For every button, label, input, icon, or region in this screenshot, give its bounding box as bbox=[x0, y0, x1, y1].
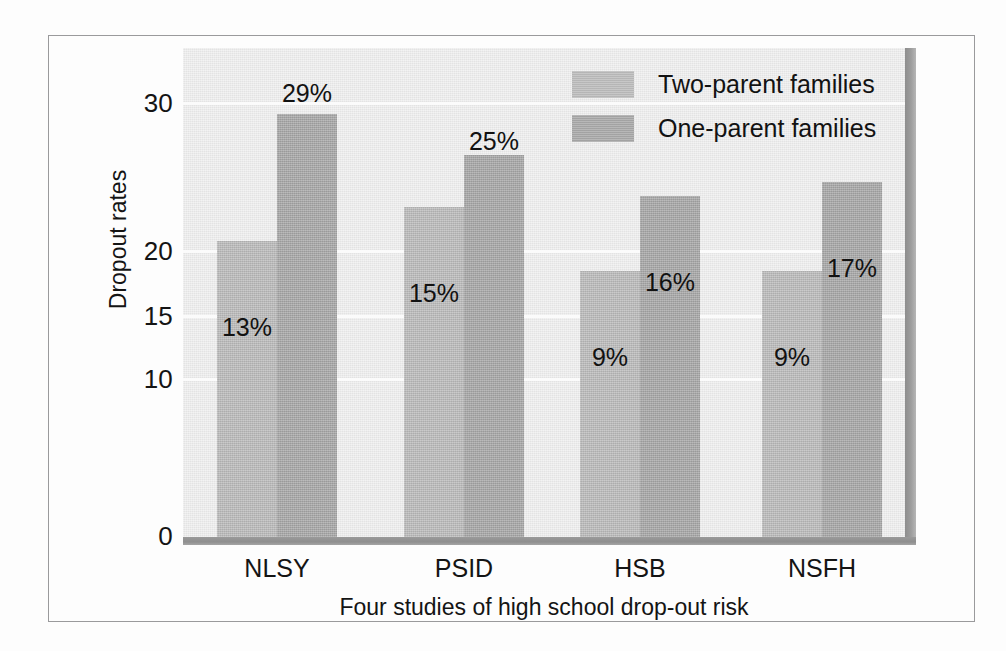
bar-value-nsfh-one-parent: 17% bbox=[792, 256, 912, 281]
y-tick-0: 0 bbox=[115, 523, 173, 549]
bar-psid-two-parent[interactable] bbox=[404, 207, 464, 537]
bar-value-nlsy-two-parent: 13% bbox=[187, 315, 307, 340]
x-tick-hsb: HSB bbox=[580, 556, 700, 581]
legend-label-one-parent: One-parent families bbox=[658, 116, 876, 141]
figure-root: 13% 29% 15% 25% 9% 16% 9% 17% 30 20 15 1… bbox=[0, 0, 1006, 651]
y-axis-title: Dropout rates bbox=[107, 110, 130, 370]
y-tick-10: 10 bbox=[115, 366, 173, 392]
legend-item-one-parent[interactable]: One-parent families bbox=[572, 106, 872, 150]
x-tick-nlsy: NLSY bbox=[217, 556, 337, 581]
bar-value-nsfh-two-parent: 9% bbox=[732, 345, 852, 370]
bar-value-nlsy-one-parent: 29% bbox=[247, 81, 367, 106]
bar-nlsy-two-parent[interactable] bbox=[217, 241, 277, 537]
axis-baseline bbox=[183, 537, 916, 545]
x-tick-nsfh: NSFH bbox=[762, 556, 882, 581]
legend-label-two-parent: Two-parent families bbox=[658, 72, 875, 97]
bar-hsb-two-parent[interactable] bbox=[580, 271, 640, 537]
bar-value-hsb-one-parent: 16% bbox=[610, 270, 730, 295]
bar-nsfh-two-parent[interactable] bbox=[762, 271, 822, 537]
bar-value-psid-one-parent: 25% bbox=[434, 129, 554, 154]
legend: Two-parent families One-parent families bbox=[572, 62, 872, 150]
plot-right-wall bbox=[905, 48, 916, 544]
x-axis-title: Four studies of high school drop-out ris… bbox=[183, 596, 905, 619]
bar-value-psid-two-parent: 15% bbox=[374, 281, 494, 306]
bar-psid-one-parent[interactable] bbox=[464, 155, 524, 537]
bar-value-hsb-two-parent: 9% bbox=[550, 345, 670, 370]
legend-swatch-icon-two-parent bbox=[572, 71, 634, 98]
legend-swatch-icon-one-parent bbox=[572, 115, 634, 142]
legend-item-two-parent[interactable]: Two-parent families bbox=[572, 62, 872, 106]
x-tick-psid: PSID bbox=[404, 556, 524, 581]
